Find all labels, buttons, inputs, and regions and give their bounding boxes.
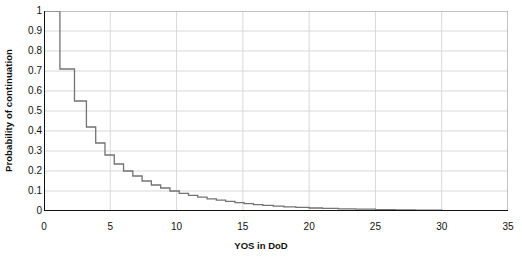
y-axis-tick-labels: 00.10.20.30.40.50.60.70.80.91 <box>10 0 42 220</box>
y-axis-tick-label: 1 <box>12 6 42 16</box>
y-axis-tick-label: 0.7 <box>12 66 42 76</box>
y-axis-tick-label: 0.9 <box>12 26 42 36</box>
y-axis-tick-label: 0.8 <box>12 46 42 56</box>
chart-figure: Probability of continuation 00.10.20.30.… <box>0 0 522 262</box>
y-axis-tick-label: 0.1 <box>12 186 42 196</box>
plot-area <box>44 11 508 211</box>
x-axis-tick-label: 15 <box>237 222 248 232</box>
y-axis-tick-label: 0.6 <box>12 86 42 96</box>
x-axis-tick-label: 35 <box>502 222 513 232</box>
x-axis-tick-label: 20 <box>304 222 315 232</box>
y-axis-tick-label: 0.2 <box>12 166 42 176</box>
x-axis-tick-label: 10 <box>171 222 182 232</box>
x-axis-title: YOS in DoD <box>0 240 522 251</box>
y-axis-tick-label: 0.5 <box>12 106 42 116</box>
y-axis-tick-label: 0.3 <box>12 146 42 156</box>
x-axis-tick-label: 25 <box>370 222 381 232</box>
x-axis-tick-labels: 05101520253035 <box>0 216 522 236</box>
horizontal-gridlines <box>44 11 508 191</box>
y-axis-tick-label: 0.4 <box>12 126 42 136</box>
y-axis-tick-label: 0 <box>12 206 42 216</box>
x-axis-tick-label: 5 <box>108 222 114 232</box>
x-axis-tick-label: 0 <box>41 222 47 232</box>
x-axis-tick-label: 30 <box>436 222 447 232</box>
chart-svg <box>44 11 508 211</box>
